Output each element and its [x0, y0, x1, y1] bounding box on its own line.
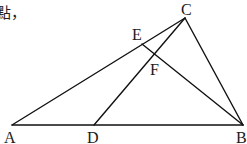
segment-bc [185, 18, 243, 125]
triangle-diagram: ABCDEF [0, 0, 247, 144]
point-label-a: A [4, 129, 16, 144]
point-label-c: C [181, 1, 192, 18]
point-label-d: D [87, 129, 99, 144]
point-label-f: F [150, 61, 159, 78]
point-label-b: B [236, 129, 247, 144]
segment-eb [142, 44, 243, 125]
point-label-e: E [132, 26, 142, 43]
segments [12, 18, 243, 125]
segment-ac [12, 18, 185, 125]
point-labels: ABCDEF [4, 1, 247, 144]
